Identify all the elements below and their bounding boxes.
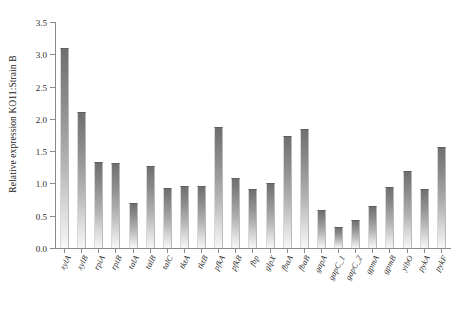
x-axis-label-pykF: pykF (433, 254, 449, 273)
y-axis-tick-label: 1.0 (36, 179, 47, 189)
bar-slot (210, 22, 227, 248)
x-axis-label-pykA: pykA (416, 254, 432, 273)
x-axis-label-pfkB: pfkB (229, 254, 244, 272)
x-axis-label-slot: fbaA (279, 254, 296, 311)
x-axis-tick (407, 248, 408, 253)
x-axis-tick (150, 248, 151, 253)
bar-slot (262, 22, 279, 248)
x-axis-tick (304, 248, 305, 253)
bar-tktB (197, 186, 206, 248)
bar-gpmA (368, 206, 377, 248)
bar-slot (176, 22, 193, 248)
x-axis-tick (287, 248, 288, 253)
bar-slot (433, 22, 450, 248)
x-axis-label-slot: pykF (433, 254, 450, 311)
bar-slot (381, 22, 398, 248)
bar-xylA (60, 48, 69, 248)
x-axis-label-fbaA: fbaA (280, 254, 295, 272)
x-axis-label-slot: rpiB (107, 254, 124, 311)
bar-slot (244, 22, 261, 248)
x-axis-label-slot: talC (159, 254, 176, 311)
x-axis-tick (184, 248, 185, 253)
bar-series (56, 22, 450, 248)
bar-slot (364, 22, 381, 248)
x-axis-label-talA: talA (126, 254, 141, 271)
bar-slot (73, 22, 90, 248)
x-axis-label-slot: tktB (193, 254, 210, 311)
x-axis-label-slot: xylA (56, 254, 73, 311)
x-axis-tick (270, 248, 271, 253)
x-axis-label-glpX: glpX (263, 254, 278, 272)
bar-rpiA (94, 162, 103, 249)
x-axis-label-pfkA: pfkA (211, 254, 226, 272)
x-axis-labels: xylAxylBrpiArpiBtalAtalBtalCtktAtktBpfkA… (56, 254, 450, 311)
bar-yibO (403, 171, 412, 248)
x-axis-label-gapA: gapA (313, 254, 329, 274)
x-axis-tick (133, 248, 134, 253)
bar-slot (159, 22, 176, 248)
x-axis-tick (167, 248, 168, 253)
x-axis-label-tktB: tktB (195, 254, 209, 270)
bar-xylB (77, 112, 86, 248)
x-axis-label-slot: tktA (176, 254, 193, 311)
bar-slot (330, 22, 347, 248)
x-axis-label-fbaB: fbaB (297, 254, 312, 272)
x-axis-label-slot: rpiA (90, 254, 107, 311)
x-axis-label-rpiA: rpiA (92, 254, 107, 271)
y-axis-tick-label: 2.0 (36, 115, 47, 125)
x-axis-label-gpmB: gpmB (381, 254, 398, 275)
y-axis-tick-label: 0.0 (36, 244, 47, 254)
bar-slot (107, 22, 124, 248)
y-axis-tick-label: 2.5 (36, 83, 47, 93)
y-axis-tick-label: 0.5 (36, 212, 47, 222)
bar-slot (279, 22, 296, 248)
x-axis-label-xylA: xylA (58, 254, 73, 271)
bar-chart-figure: Relative expression KO11:Strain B 3.53.0… (0, 0, 457, 311)
x-axis-label-slot: pfkB (227, 254, 244, 311)
x-axis-label-yibO: yibO (399, 254, 415, 273)
x-axis-label-talC: talC (160, 254, 175, 271)
bar-slot (142, 22, 159, 248)
x-axis-label-gapC_2: gapC_2 (343, 254, 363, 282)
y-axis-title-text: Relative expression KO11:Strain B (8, 55, 18, 192)
x-axis-label-slot: glpX (262, 254, 279, 311)
x-axis-tick (235, 248, 236, 253)
bar-slot (56, 22, 73, 248)
x-axis-label-slot: fbaB (296, 254, 313, 311)
bar-slot (416, 22, 433, 248)
bar-fbaB (300, 129, 309, 249)
x-axis-label-slot: gapC_2 (347, 254, 364, 311)
bar-gpmB (385, 187, 394, 248)
bar-rpiB (111, 163, 120, 248)
y-axis-tick-label: 3.5 (36, 18, 47, 28)
x-axis-label-slot: fbp (244, 254, 261, 311)
x-axis-tick (424, 248, 425, 253)
bar-glpX (266, 183, 275, 248)
bar-pykF (437, 147, 446, 248)
x-axis-label-slot: gpmB (381, 254, 398, 311)
bar-slot (125, 22, 142, 248)
x-axis-label-talB: talB (144, 254, 159, 271)
x-axis-label-rpiB: rpiB (109, 254, 124, 271)
x-axis-tick (252, 248, 253, 253)
bar-slot (347, 22, 364, 248)
bar-fbp (248, 189, 257, 248)
x-axis-label-slot: pykA (416, 254, 433, 311)
bar-talB (146, 166, 155, 248)
bar-pfkA (214, 127, 223, 248)
x-axis-label-slot: yibO (399, 254, 416, 311)
x-axis-label-slot: talB (142, 254, 159, 311)
x-axis-label-xylB: xylB (75, 254, 90, 271)
y-axis-tick-label: 3.0 (36, 50, 47, 60)
bar-pfkB (231, 178, 240, 248)
x-axis-label-gpmA: gpmA (364, 254, 381, 275)
bar-talA (129, 203, 138, 248)
x-axis-tick (389, 248, 390, 253)
bar-slot (227, 22, 244, 248)
x-axis-label-slot: xylB (73, 254, 90, 311)
bar-slot (90, 22, 107, 248)
x-axis-tick (201, 248, 202, 253)
x-axis-tick (338, 248, 339, 253)
bar-slot (313, 22, 330, 248)
bar-gapA (317, 210, 326, 248)
